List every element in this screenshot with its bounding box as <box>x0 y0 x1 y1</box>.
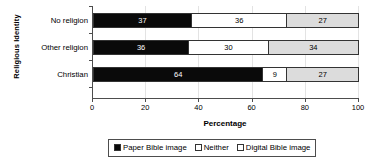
bar-value-label: 30 <box>224 44 232 52</box>
category-label-other-religion: Other religion <box>18 43 88 53</box>
x-tick-mark-40 <box>198 98 199 102</box>
bar-segment-paper[interactable]: 37 <box>93 13 192 28</box>
y-axis-tick-3 <box>89 87 93 88</box>
bar-segment-digital[interactable]: 27 <box>286 13 359 28</box>
bar-value-label: 36 <box>235 17 243 25</box>
bar-segment-digital[interactable]: 34 <box>268 40 359 55</box>
bar-segment-neither[interactable]: 36 <box>191 13 288 28</box>
bar-value-label: 9 <box>273 71 277 79</box>
bar-value-label: 36 <box>137 44 145 52</box>
bar-value-label: 64 <box>174 71 182 79</box>
x-tick-mark-60 <box>252 98 253 102</box>
bar-value-label: 27 <box>319 17 327 25</box>
bar-segment-neither[interactable]: 30 <box>188 40 269 55</box>
x-tick-label-40: 40 <box>194 103 202 112</box>
legend-label: Neither <box>204 144 229 152</box>
legend-item-paper-bible-image[interactable]: Paper Bible image <box>114 144 187 152</box>
bar-segment-neither[interactable]: 9 <box>262 67 287 82</box>
x-tick-mark-0 <box>92 98 93 102</box>
x-tick-mark-20 <box>145 98 146 102</box>
y-axis-tick-1 <box>89 33 93 34</box>
x-tick-label-100: 100 <box>352 103 365 112</box>
legend-label: Paper Bible image <box>123 144 187 152</box>
light-gray-swatch-icon <box>237 144 244 151</box>
legend-label: Digital Bible image <box>246 144 311 152</box>
stacked-bar-chart: Religious Identity No religion Other rel… <box>0 0 370 165</box>
y-axis-tick-top <box>89 6 93 7</box>
bar-row[interactable]: 36 30 34 <box>93 40 359 55</box>
x-tick-label-60: 60 <box>247 103 255 112</box>
white-swatch-icon <box>195 144 202 151</box>
x-tick-label-0: 0 <box>90 103 94 112</box>
bar-row[interactable]: 37 36 27 <box>93 13 359 28</box>
bar-segment-digital[interactable]: 27 <box>286 67 359 82</box>
x-tick-mark-100 <box>358 98 359 102</box>
x-tick-mark-80 <box>305 98 306 102</box>
bar-value-label: 27 <box>319 71 327 79</box>
x-axis-ticks: 0 20 40 60 80 100 <box>92 98 358 103</box>
bar-value-label: 34 <box>309 44 317 52</box>
bar-segment-paper[interactable]: 64 <box>93 67 263 82</box>
category-label-christian: Christian <box>18 70 88 80</box>
bar-row[interactable]: 64 9 27 <box>93 67 359 82</box>
x-tick-label-20: 20 <box>141 103 149 112</box>
x-tick-label-80: 80 <box>301 103 309 112</box>
bar-value-label: 37 <box>138 17 146 25</box>
category-axis-labels: No religion Other religion Christian <box>18 8 88 94</box>
category-label-no-religion: No religion <box>18 16 88 26</box>
y-axis-tick-2 <box>89 60 93 61</box>
x-axis-title: Percentage <box>92 119 358 128</box>
plot-area: 37 36 27 36 30 34 64 9 27 <box>92 6 359 98</box>
bar-segment-paper[interactable]: 36 <box>93 40 189 55</box>
legend-item-digital-bible-image[interactable]: Digital Bible image <box>237 144 311 152</box>
chart-legend: Paper Bible image Neither Digital Bible … <box>108 139 316 157</box>
solid-black-swatch-icon <box>114 144 121 151</box>
legend-item-neither[interactable]: Neither <box>195 144 229 152</box>
